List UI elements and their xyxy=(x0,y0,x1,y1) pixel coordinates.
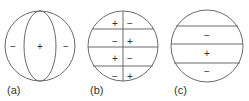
sign-a-left: − xyxy=(10,41,16,52)
sign-b-r4-right: + xyxy=(127,71,133,82)
panel-a: − + − (a) xyxy=(5,11,75,96)
sign-a-center: + xyxy=(37,41,43,52)
sign-c-zone4: − xyxy=(204,66,210,77)
panel-label-b: (b) xyxy=(90,84,103,96)
sign-c-zone3: + xyxy=(204,48,210,59)
sign-b-r3-left: + xyxy=(112,53,118,64)
sign-b-r1-right: − xyxy=(127,18,133,29)
sign-b-r2-left: − xyxy=(112,36,118,47)
panel-label-c: (c) xyxy=(174,84,187,96)
panel-label-a: (a) xyxy=(7,84,20,96)
sign-b-r2-right: + xyxy=(127,36,133,47)
harmonic-sphere-figure: − + − (a) + − − + + − − + (b) − + − (c) xyxy=(0,0,249,101)
panel-c: − + − (c) xyxy=(171,10,243,96)
panel-b: + − − + + − − + (b) xyxy=(88,11,158,96)
sign-c-zone2: − xyxy=(204,30,210,41)
sign-b-r4-left: − xyxy=(112,71,118,82)
sign-b-r1-left: + xyxy=(112,18,118,29)
sign-a-right: − xyxy=(63,41,69,52)
sign-b-r3-right: − xyxy=(127,53,133,64)
